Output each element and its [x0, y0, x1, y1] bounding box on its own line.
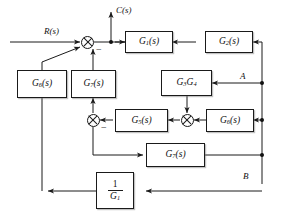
block-g7-label: G7(s): [83, 79, 103, 89]
fraction-denominator: G1: [107, 191, 123, 201]
block-g2[interactable]: G2(s): [205, 31, 253, 53]
block-g9[interactable]: G6(s): [206, 109, 254, 132]
block-inverse-g1[interactable]: 1 G1: [96, 172, 134, 209]
block-g1[interactable]: G1(s): [125, 31, 173, 53]
summing-junction-mid-left-minus: −: [101, 123, 107, 133]
block-g3g4[interactable]: G3G4: [161, 70, 212, 96]
block-g1-label: G1(s): [139, 37, 159, 47]
block-g9-row-label: G7(s): [165, 150, 185, 160]
block-g7[interactable]: G7(s): [71, 70, 116, 98]
block-diagram-canvas: G1(s) G2(s) G6(s) G7(s) G3G4 G5(s) G6(s)…: [0, 0, 282, 215]
summing-junction-mid-right[interactable]: [181, 114, 194, 127]
block-g2-label: G2(s): [219, 37, 239, 47]
block-g9-label: G6(s): [220, 116, 240, 126]
summing-junction-top-minus: −: [96, 45, 102, 55]
label-input-r: R(s): [44, 27, 59, 36]
block-g6-label: G6(s): [32, 79, 52, 89]
label-output-c: C(s): [116, 6, 132, 15]
block-g8-label: G5(s): [131, 116, 151, 126]
label-point-a: A: [240, 72, 246, 81]
summing-junction-mid-left[interactable]: [87, 114, 100, 127]
block-inverse-g1-fraction: 1 G1: [107, 180, 123, 202]
fraction-numerator: 1: [110, 180, 121, 190]
summing-junction-top[interactable]: [81, 36, 94, 49]
wire-g6-to-topsum: [42, 47, 80, 70]
label-point-b: B: [243, 172, 249, 181]
block-g9-row[interactable]: G7(s): [146, 143, 205, 167]
block-g6[interactable]: G6(s): [17, 70, 67, 98]
block-g3g4-label: G3G4: [176, 78, 196, 88]
block-g8[interactable]: G5(s): [115, 109, 168, 132]
